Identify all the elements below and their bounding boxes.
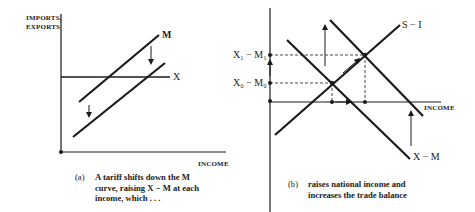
caption-a-tag: (a) <box>75 172 85 183</box>
curve-x-label: X <box>173 72 180 82</box>
x-axis-label-a: INCOME <box>198 161 229 168</box>
caption-a-line1: A tariff shifts down the M <box>95 172 190 183</box>
x-axis-label-b: INCOME <box>424 105 455 112</box>
caption-a-line3: income, which . . . <box>95 193 160 204</box>
trade-balance-curve-original <box>287 40 410 159</box>
caption-b: (b) raises national income and increases… <box>288 179 468 203</box>
y-tick-upper-label: X₁ − M₁ <box>233 50 267 60</box>
origin-dot <box>59 150 63 154</box>
imports-curve-original <box>79 35 159 102</box>
panel-a-graph <box>59 14 226 154</box>
saving-investment-curve <box>275 25 400 135</box>
y-axis-label-a2: EXPORTS <box>26 24 60 31</box>
caption-a-line2: curve, raising X − M at each <box>95 183 199 194</box>
curve-xm-label: X − M <box>413 152 440 162</box>
caption-b-line2: increases the trade balance <box>308 190 407 201</box>
income-dot-lower <box>330 100 334 104</box>
origin-dot <box>268 99 272 103</box>
equilibrium-upper <box>363 53 367 57</box>
si-movement-arrow <box>343 60 358 73</box>
y-axis-label-a1: IMPORTS, <box>26 15 62 22</box>
curve-m-label: M <box>162 30 171 40</box>
equilibrium-lower <box>330 81 334 85</box>
caption-b-tag: (b) <box>288 179 298 190</box>
caption-a: (a) A tariff shifts down the M curve, ra… <box>75 172 235 206</box>
imports-curve-shifted <box>73 63 165 137</box>
caption-b-line1: raises national income and <box>308 179 406 190</box>
income-dot-upper <box>363 100 367 104</box>
curve-si-label: S − I <box>402 20 422 30</box>
y-tick-lower-label: X₀ − M₀ <box>233 78 267 88</box>
